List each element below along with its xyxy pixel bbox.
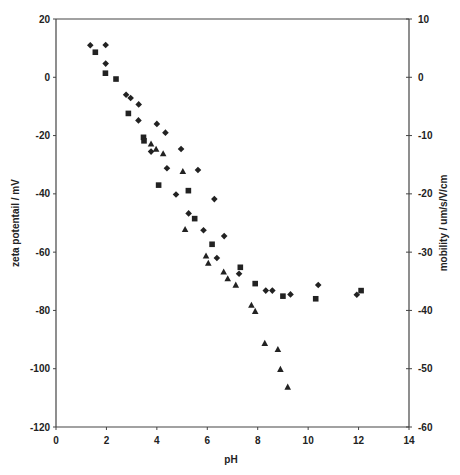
triangle-marker (153, 146, 160, 152)
y-tick-label: -100 (30, 363, 50, 374)
square-marker (358, 288, 364, 294)
triangle-marker (160, 150, 167, 156)
y-tick-label: 20 (39, 14, 51, 25)
x-tick-label: 8 (255, 435, 261, 446)
y2-tick-label: 0 (418, 72, 424, 83)
x-tick-label: 2 (104, 435, 110, 446)
y2-tick-label: -50 (418, 363, 433, 374)
triangle-marker (220, 268, 227, 274)
plot-frame (56, 19, 409, 427)
triangle-marker (232, 282, 239, 288)
y-tick-label: -80 (36, 305, 51, 316)
x-tick-label: 12 (353, 435, 365, 446)
square-marker (126, 111, 132, 117)
x-axis: 02468101214 (53, 427, 415, 446)
triangle-marker (284, 384, 291, 390)
triangle-marker (203, 252, 210, 258)
x-axis-title: pH (224, 454, 237, 465)
y2-tick-label: -60 (418, 422, 433, 433)
diamond-marker (269, 287, 276, 294)
square-marker (313, 296, 319, 302)
scatter-chart: 02468101214 200-20-40-60-80-100-120 100-… (0, 0, 460, 475)
square-marker (93, 49, 99, 55)
diamond-marker (154, 121, 161, 128)
diamond-marker (236, 270, 243, 277)
diamond-marker (164, 165, 171, 172)
square-marker (280, 293, 286, 299)
square-marker (238, 264, 244, 270)
diamond-marker (135, 117, 142, 124)
y-axis-right: 100-10-20-30-40-50-60 (406, 14, 433, 433)
y2-tick-label: -40 (418, 305, 433, 316)
triangle-marker (252, 308, 259, 314)
x-tick-label: 10 (303, 435, 315, 446)
diamond-marker (178, 146, 185, 153)
y2-axis-title: mobility / um/s/V/cm (438, 175, 449, 272)
triangle-marker (205, 260, 212, 266)
triangle-marker (224, 275, 231, 281)
square-marker (192, 216, 198, 222)
square-marker (141, 138, 147, 144)
diamond-marker (262, 287, 269, 294)
y-tick-label: -120 (30, 422, 50, 433)
diamond-marker (195, 167, 202, 174)
y-axis-left: 200-20-40-60-80-100-120 (30, 14, 56, 433)
data-markers (87, 42, 364, 390)
y2-tick-label: 10 (418, 14, 430, 25)
y-tick-label: 0 (44, 72, 50, 83)
y2-tick-label: -10 (418, 130, 433, 141)
triangle-marker (275, 346, 282, 352)
y2-tick-label: -20 (418, 188, 433, 199)
triangle-marker (261, 340, 268, 346)
diamond-marker (315, 282, 322, 289)
diamond-marker (185, 210, 192, 217)
y-tick-label: -40 (36, 188, 51, 199)
diamond-marker (221, 233, 228, 240)
diamond-marker (173, 191, 180, 198)
diamond-marker (87, 42, 94, 49)
diamond-marker (102, 42, 109, 49)
square-marker (103, 70, 109, 76)
triangle-marker (180, 168, 187, 174)
triangle-marker (182, 226, 189, 232)
square-marker (186, 188, 192, 194)
series-square (93, 49, 364, 301)
diamond-marker (211, 196, 218, 203)
triangle-marker (277, 366, 284, 372)
diamond-marker (200, 227, 207, 234)
square-marker (113, 76, 119, 82)
square-marker (252, 281, 258, 287)
diamond-marker (162, 129, 169, 136)
triangle-marker (148, 141, 155, 147)
triangle-marker (248, 302, 255, 308)
diamond-marker (102, 60, 109, 67)
diamond-marker (214, 255, 221, 262)
square-marker (209, 241, 215, 247)
diamond-marker (135, 101, 142, 108)
diamond-marker (287, 291, 294, 298)
series-diamond (87, 42, 360, 298)
y-axis-title: zeta potentail / mV (10, 179, 21, 267)
y-tick-label: -60 (36, 247, 51, 258)
series-triangle (148, 141, 291, 390)
x-tick-label: 6 (205, 435, 211, 446)
y-tick-label: -20 (36, 130, 51, 141)
x-tick-label: 0 (53, 435, 59, 446)
y2-tick-label: -30 (418, 247, 433, 258)
x-tick-label: 14 (403, 435, 415, 446)
x-tick-label: 4 (154, 435, 160, 446)
square-marker (156, 182, 162, 188)
